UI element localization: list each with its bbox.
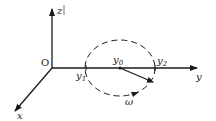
- x-axis-label: x: [17, 110, 23, 121]
- origin-label: O: [41, 57, 49, 68]
- z-axis-label: z: [56, 5, 63, 16]
- y-axis-label: y: [195, 71, 202, 82]
- diagram-canvas: z y x O y0 y1 y2 ω: [0, 0, 216, 121]
- radius-vector: [120, 68, 153, 82]
- y1-label: y1: [75, 70, 86, 83]
- y2-label: y2: [156, 55, 168, 68]
- x-axis: [15, 68, 52, 111]
- y0-label: y0: [112, 54, 124, 67]
- omega-label: ω: [125, 96, 133, 107]
